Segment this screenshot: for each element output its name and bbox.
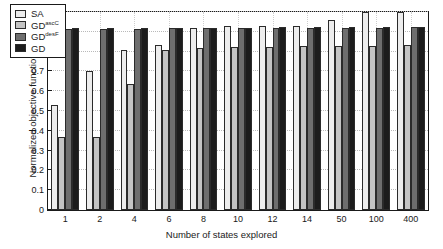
- legend-label-gd: GD: [31, 44, 45, 54]
- figure: Normalized objective function Number of …: [0, 0, 443, 249]
- bar-GD-10: [245, 28, 252, 210]
- legend-label-gddesf: GDdesF: [31, 31, 59, 42]
- x-axis-tick-label: 6: [166, 214, 171, 224]
- y-axis-tick-label: 0.2: [31, 165, 44, 175]
- y-axis-tick-mark: [48, 70, 52, 71]
- bar-GDdesF-50: [342, 28, 349, 210]
- bar-SA-50: [328, 20, 335, 210]
- y-axis-tick-label: 0.7: [31, 66, 44, 76]
- bar-SA-8: [190, 28, 197, 210]
- bar-GD-400: [418, 27, 425, 210]
- y-axis-tick-label: 0.5: [31, 106, 44, 116]
- y-axis-tick-label: 0: [39, 205, 44, 215]
- bar-GDascC-12: [266, 47, 273, 210]
- y-axis-tick-label: 0.3: [31, 146, 44, 156]
- x-axis-tick-label: 8: [201, 214, 206, 224]
- legend-item-gd: GD: [15, 43, 59, 55]
- y-axis-tick-label: 0.6: [31, 86, 44, 96]
- bar-GD-100: [383, 27, 390, 210]
- bar-GDascC-14: [300, 46, 307, 210]
- bar-GD-8: [210, 28, 217, 210]
- legend-swatch-gd: [15, 44, 26, 52]
- bar-GDascC-8: [197, 48, 204, 210]
- x-axis-tick-label: 2: [97, 214, 102, 224]
- bar-GD-14: [314, 27, 321, 210]
- bar-GDdesF-1: [65, 29, 72, 210]
- bar-GD-6: [176, 28, 183, 210]
- legend-swatch-gdascc: [15, 21, 26, 29]
- bar-SA-10: [224, 26, 231, 210]
- bar-SA-400: [397, 12, 404, 210]
- bar-GDascC-4: [127, 84, 134, 210]
- bar-GDdesF-2: [100, 29, 107, 210]
- x-axis-tick-label: 50: [337, 214, 347, 224]
- bar-GDascC-1: [58, 137, 65, 210]
- bar-SA-1: [51, 105, 58, 210]
- legend: SA GDascC GDdesF GD: [10, 4, 66, 58]
- bar-GDdesF-10: [238, 28, 245, 210]
- legend-swatch-gddesf: [15, 33, 26, 41]
- bar-GDascC-2: [93, 137, 100, 210]
- bar-GDdesF-400: [411, 27, 418, 210]
- bar-GDdesF-14: [307, 28, 314, 210]
- y-axis-tick-label: 0.4: [31, 126, 44, 136]
- bar-GDdesF-8: [203, 28, 210, 210]
- bar-GD-50: [349, 27, 356, 210]
- bar-SA-14: [293, 26, 300, 210]
- x-axis-tick-label: 400: [403, 214, 418, 224]
- bar-GDascC-50: [335, 46, 342, 210]
- bar-GDascC-100: [369, 46, 376, 210]
- x-axis-tick-label: 1: [63, 214, 68, 224]
- x-axis-tick-label: 4: [132, 214, 137, 224]
- plot-inner: 00.10.20.30.40.50.60.70.80.9112468101214…: [48, 12, 428, 210]
- bar-GDascC-10: [231, 47, 238, 210]
- x-axis-tick-label: 12: [268, 214, 278, 224]
- plot-area: 00.10.20.30.40.50.60.70.80.9112468101214…: [47, 11, 429, 211]
- bar-GD-4: [141, 28, 148, 210]
- bar-GD-12: [279, 27, 286, 210]
- legend-item-gddesf: GDdesF: [15, 31, 59, 43]
- bar-SA-2: [86, 71, 93, 210]
- bar-SA-12: [259, 26, 266, 210]
- bar-GDdesF-6: [169, 28, 176, 210]
- x-axis-tick-label: 14: [302, 214, 312, 224]
- legend-item-sa: SA: [15, 8, 59, 20]
- bar-GDascC-6: [162, 50, 169, 210]
- bar-SA-100: [362, 12, 369, 210]
- bar-SA-6: [155, 45, 162, 210]
- x-axis-tick-label: 100: [369, 214, 384, 224]
- bar-GD-1: [72, 28, 79, 210]
- bar-GDdesF-100: [376, 28, 383, 210]
- bar-GDdesF-4: [134, 29, 141, 210]
- legend-item-gdascc: GDascC: [15, 20, 59, 32]
- bar-SA-4: [121, 50, 128, 210]
- legend-swatch-sa: [15, 10, 26, 18]
- legend-label-gdascc: GDascC: [31, 20, 59, 31]
- x-axis-label: Number of states explored: [0, 229, 443, 240]
- x-axis-tick-label: 10: [233, 214, 243, 224]
- bar-GDdesF-12: [273, 28, 280, 210]
- bar-GDascC-400: [404, 45, 411, 210]
- y-axis-tick-label: 0.1: [31, 185, 44, 195]
- y-axis-tick-mark: [48, 90, 52, 91]
- legend-label-sa: SA: [31, 9, 44, 19]
- bar-GD-2: [107, 28, 114, 210]
